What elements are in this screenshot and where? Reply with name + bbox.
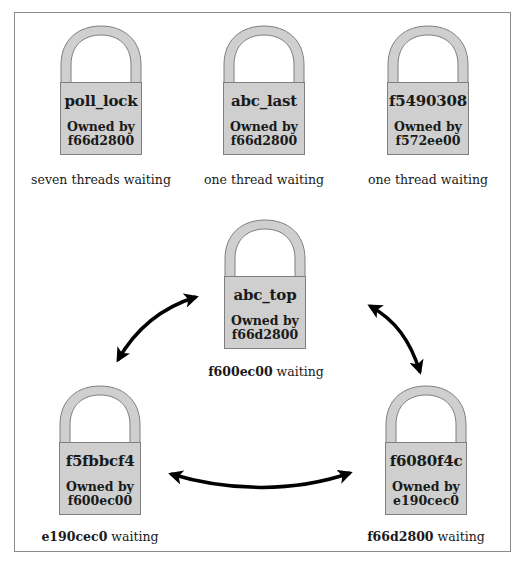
double-arrow-icon (118, 297, 196, 360)
deadlock-arrows (0, 0, 527, 567)
double-arrow-icon (370, 306, 420, 372)
double-arrow-icon (171, 473, 350, 487)
